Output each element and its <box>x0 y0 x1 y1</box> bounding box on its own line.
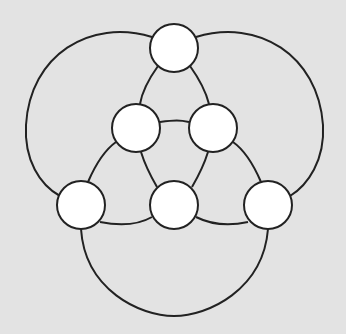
edge-innerright-bottommiddle <box>192 152 208 187</box>
node-inner-right <box>189 104 237 152</box>
edge-outer-bottom <box>81 229 268 316</box>
edge-top-innerleft <box>140 66 158 104</box>
node-inner-left <box>112 104 160 152</box>
node-bottom-middle <box>150 181 198 229</box>
node-top <box>150 24 198 72</box>
edge-innerleft-bottomleft <box>88 142 116 182</box>
edge-innerleft-innerright <box>160 121 189 123</box>
graph-diagram <box>0 0 346 334</box>
node-bottom-right <box>244 181 292 229</box>
edge-bottomleft-bottommiddle <box>100 217 152 224</box>
edge-bottommiddle-bottomright <box>196 217 248 224</box>
edges-group <box>26 32 323 316</box>
edge-innerleft-bottommiddle <box>141 152 157 187</box>
nodes-group <box>57 24 292 229</box>
edge-innerright-bottomright <box>233 142 261 182</box>
node-bottom-left <box>57 181 105 229</box>
edge-top-innerright <box>190 66 209 104</box>
